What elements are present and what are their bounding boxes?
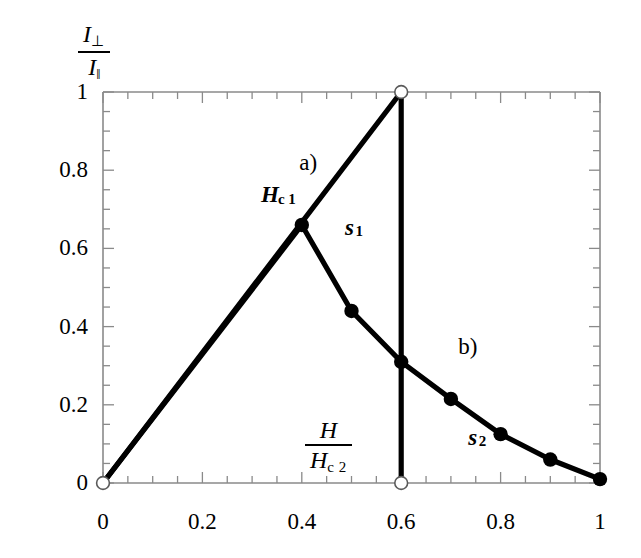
x-denominator-subscript: c 2 <box>327 459 346 475</box>
data-point-open <box>97 477 110 490</box>
x-tick-label: 0.8 <box>486 509 515 535</box>
y-axis-label-numerator: I⊥ <box>78 22 110 53</box>
data-point-filled <box>543 452 557 466</box>
y-numerator-symbol: I <box>83 21 91 47</box>
data-point-filled <box>493 427 507 441</box>
s1-label-main: s <box>345 215 354 241</box>
x-axis-label: H Hc 2 <box>305 418 352 476</box>
s2-label-main: s <box>468 425 477 451</box>
y-axis-label: I⊥ I‖ <box>78 22 110 83</box>
figure-canvas: I⊥ I‖ H Hc 2 00.20.40.60.8100.20.40.60.8… <box>0 0 641 558</box>
s1-label-sub: 1 <box>355 223 363 240</box>
x-axis-label-numerator: H <box>305 418 352 446</box>
x-denominator-symbol: H <box>310 447 327 473</box>
s2-label-sub: 2 <box>479 433 487 450</box>
y-tick-label: 0.8 <box>30 157 88 183</box>
x-tick-label: 0 <box>97 509 109 535</box>
y-denominator-subscript: ‖ <box>96 66 99 82</box>
data-point-filled <box>295 218 309 232</box>
x-tick-label: 0.2 <box>188 509 217 535</box>
y-tick-label: 1 <box>30 79 88 105</box>
y-tick-label: 0 <box>30 470 88 496</box>
curve-a-label: a) <box>299 150 317 176</box>
y-tick-label: 0.6 <box>30 235 88 261</box>
data-point-open <box>395 477 408 490</box>
data-point-open <box>395 86 408 99</box>
y-denominator-symbol: I <box>88 54 96 80</box>
data-point-filled <box>593 472 607 486</box>
curve-b-label: b) <box>458 334 477 360</box>
x-tick-label: 0.4 <box>287 509 316 535</box>
data-point-filled <box>394 355 408 369</box>
data-point-filled <box>344 304 358 318</box>
x-numerator-symbol: H <box>320 417 337 443</box>
x-tick-label: 0.6 <box>387 509 416 535</box>
hc1-label-sub: c 1 <box>278 191 296 208</box>
y-numerator-subscript: ⊥ <box>91 33 105 49</box>
x-axis-label-denominator: Hc 2 <box>305 446 352 476</box>
hc1-label-main: H <box>261 182 279 208</box>
data-point-filled <box>444 392 458 406</box>
y-tick-label: 0.2 <box>30 392 88 418</box>
x-tick-label: 1 <box>594 509 606 535</box>
y-tick-label: 0.4 <box>30 314 88 340</box>
